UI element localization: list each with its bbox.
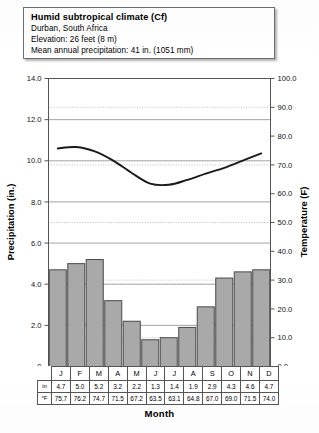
- month-cell-d-11: D: [259, 367, 278, 381]
- temp-cell-o-9: 69.0: [222, 393, 241, 405]
- temp-cell-d-11: 74.0: [259, 393, 278, 405]
- precip-cell-d-11: 4.7: [259, 381, 278, 393]
- svg-text:20.0: 20.0: [278, 305, 293, 314]
- month-cell-m-2: M: [89, 367, 108, 381]
- svg-text:4.0: 4.0: [31, 280, 42, 289]
- month-cell-s-8: S: [203, 367, 222, 381]
- temp-cell-n-10: 71.5: [241, 393, 260, 405]
- climate-chart-page: Humid subtropical climate (Cf) Durban, S…: [0, 0, 319, 433]
- climate-elevation: Elevation: 26 feet (8 m): [31, 34, 268, 45]
- precip-cell-f-1: 5.0: [70, 381, 89, 393]
- precip-cell-j-6: 1.4: [165, 381, 184, 393]
- month-cell-m-4: M: [127, 367, 146, 381]
- month-cell-n-10: N: [241, 367, 260, 381]
- climate-title: Humid subtropical climate (Cf): [31, 12, 268, 23]
- climate-mean-precipitation: Mean annual precipitation: 41 in. (1051 …: [31, 45, 268, 56]
- temp-cell-m-4: 67.2: [127, 393, 146, 405]
- right-axis-title: Temperature (F): [298, 187, 309, 258]
- x-axis-title: Month: [0, 408, 319, 419]
- month-cell-j-0: J: [52, 367, 71, 381]
- month-row-head: [38, 367, 52, 381]
- precip-cell-a-7: 1.9: [184, 381, 203, 393]
- climate-data-table: JFMAMJJASOND in 4.75.05.23.22.21.31.41.9…: [37, 366, 279, 405]
- svg-text:14.0: 14.0: [27, 74, 42, 83]
- svg-text:70.0: 70.0: [278, 161, 293, 170]
- svg-text:2.0: 2.0: [31, 321, 42, 330]
- precip-cell-s-8: 2.9: [203, 381, 222, 393]
- temp-cell-j-0: 75.7: [52, 393, 71, 405]
- svg-text:0.0: 0.0: [278, 362, 289, 366]
- svg-text:10.0: 10.0: [27, 156, 42, 165]
- temp-cell-s-8: 67.0: [203, 393, 222, 405]
- temp-cell-j-5: 63.5: [146, 393, 165, 405]
- climograph-plot: 14.012.010.08.06.04.02.00 100.090.080.07…: [0, 66, 319, 366]
- month-cell-a-3: A: [108, 367, 127, 381]
- climate-info-box: Humid subtropical climate (Cf) Durban, S…: [23, 7, 275, 59]
- month-cell-j-6: J: [165, 367, 184, 381]
- precip-cell-m-2: 5.2: [89, 381, 108, 393]
- precip-cell-m-4: 2.2: [127, 381, 146, 393]
- precip-cell-a-3: 3.2: [108, 381, 127, 393]
- svg-text:8.0: 8.0: [31, 198, 42, 207]
- right-axis-ticks: 100.090.080.070.060.050.040.030.020.010.…: [271, 74, 297, 366]
- climograph-svg: 14.012.010.08.06.04.02.00 100.090.080.07…: [0, 66, 319, 366]
- precip-cell-j-0: 4.7: [52, 381, 71, 393]
- precip-row-head: in: [38, 381, 52, 393]
- svg-text:50.0: 50.0: [278, 218, 293, 227]
- left-axis-ticks: 14.012.010.08.06.04.02.00: [27, 74, 49, 366]
- table-row-months: JFMAMJJASOND: [38, 367, 279, 381]
- month-cell-j-5: J: [146, 367, 165, 381]
- temp-cell-a-3: 71.5: [108, 393, 127, 405]
- temp-row-head: °F: [38, 393, 52, 405]
- svg-text:60.0: 60.0: [278, 189, 293, 198]
- svg-text:30.0: 30.0: [278, 276, 293, 285]
- svg-text:90.0: 90.0: [278, 103, 293, 112]
- temp-cell-f-1: 76.2: [70, 393, 89, 405]
- temp-cell-j-6: 63.1: [165, 393, 184, 405]
- precip-cell-n-10: 4.6: [241, 381, 260, 393]
- temperature-line: [58, 147, 262, 185]
- month-cell-a-7: A: [184, 367, 203, 381]
- svg-text:80.0: 80.0: [278, 132, 293, 141]
- svg-text:10.0: 10.0: [278, 333, 293, 342]
- table-row-precipitation: in 4.75.05.23.22.21.31.41.92.94.34.64.7: [38, 381, 279, 393]
- month-cell-f-1: F: [70, 367, 89, 381]
- precip-cell-j-5: 1.3: [146, 381, 165, 393]
- svg-text:40.0: 40.0: [278, 247, 293, 256]
- month-cell-o-9: O: [222, 367, 241, 381]
- climate-location: Durban, South Africa: [31, 23, 268, 34]
- precipitation-bars: [49, 260, 270, 366]
- left-axis-title: Precipitation (in.): [5, 184, 16, 261]
- temp-cell-a-7: 64.8: [184, 393, 203, 405]
- precip-cell-o-9: 4.3: [222, 381, 241, 393]
- table-row-temperature: °F 75.776.274.771.567.263.563.164.867.06…: [38, 393, 279, 405]
- svg-text:6.0: 6.0: [31, 239, 42, 248]
- temp-cell-m-2: 74.7: [89, 393, 108, 405]
- svg-text:12.0: 12.0: [27, 115, 42, 124]
- svg-text:100.0: 100.0: [278, 74, 297, 83]
